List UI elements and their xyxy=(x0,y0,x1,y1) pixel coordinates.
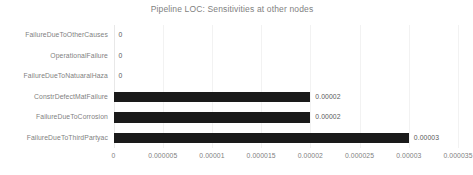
bar-value-label: 0 xyxy=(119,25,123,46)
x-tick-label: 0.00003 xyxy=(396,152,421,159)
bar[interactable] xyxy=(114,133,409,144)
bar-value-label: 0 xyxy=(119,66,123,87)
bar-row: ConstrDefectMatFailure0.00002 xyxy=(0,87,464,108)
bar-row: FailureDueToOtherCauses0 xyxy=(0,25,464,46)
bar-value-label: 0.00003 xyxy=(414,128,439,149)
bar[interactable] xyxy=(114,112,311,123)
category-label: FailureDueToOtherCauses xyxy=(0,25,108,46)
bar[interactable] xyxy=(114,92,311,103)
bar-row: FailureDueToCorrosion0.00002 xyxy=(0,107,464,128)
category-label: FailureDueToThirdPartyac xyxy=(0,128,108,149)
bar-row: FailureDueToThirdPartyac0.00003 xyxy=(0,128,464,149)
bar-value-label: 0 xyxy=(119,46,123,67)
category-label: OperationalFailure xyxy=(0,46,108,67)
bar-row: OperationalFailure0 xyxy=(0,46,464,67)
x-tick-label: 0.000015 xyxy=(247,152,276,159)
chart-title: Pipeline LOC: Sensitivities at other nod… xyxy=(0,4,464,14)
x-tick-label: 0.000025 xyxy=(345,152,374,159)
x-tick-label: 0.00002 xyxy=(298,152,323,159)
bar-value-label: 0.00002 xyxy=(315,107,340,128)
category-label: FailureDueToCorrosion xyxy=(0,107,108,128)
bar-value-label: 0.00002 xyxy=(315,87,340,108)
category-label: ConstrDefectMatFailure xyxy=(0,87,108,108)
bar-row: FailureDueToNatuaralHaza0 xyxy=(0,66,464,87)
x-tick-label: 0.000035 xyxy=(443,152,472,159)
x-tick-label: 0.000005 xyxy=(148,152,177,159)
x-tick-label: 0 xyxy=(112,152,116,159)
category-label: FailureDueToNatuaralHaza xyxy=(0,66,108,87)
x-tick-label: 0.00001 xyxy=(199,152,224,159)
